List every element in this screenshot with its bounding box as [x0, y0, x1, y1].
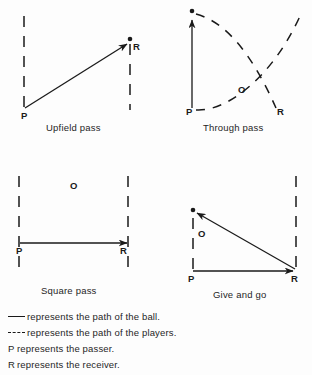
legend: represents the path of the ball. represe…: [8, 308, 308, 372]
legend-row: represents the path of the players.: [8, 324, 308, 340]
caption-through-pass: Through pass: [203, 122, 264, 133]
passer-label: P: [188, 273, 195, 284]
offense-label: O: [198, 228, 205, 239]
legend-text: represents the receiver.: [17, 359, 308, 370]
ball-path-arrow-return: [197, 213, 295, 269]
solid-line-icon: [8, 311, 25, 321]
receiver-label: R: [291, 273, 298, 284]
receiver-label: R: [133, 41, 140, 52]
legend-key-passer: P: [8, 343, 17, 354]
offense-label: O: [70, 180, 77, 191]
passer-label: P: [186, 106, 193, 117]
player-path-curve-bottom: [196, 16, 300, 110]
legend-row: R represents the receiver.: [8, 356, 308, 372]
offense-label: O: [238, 84, 245, 95]
diagram-square-pass: P R O: [16, 176, 128, 272]
legend-text: represents the path of the players.: [27, 327, 308, 338]
legend-text: represents the path of the ball.: [27, 311, 308, 322]
caption-square-pass: Square pass: [41, 285, 97, 296]
legend-key-receiver: R: [8, 359, 17, 370]
diagram-through-pass: P O R: [186, 9, 300, 117]
ball-path-arrow: [25, 44, 127, 108]
caption-upfield-pass: Upfield pass: [46, 122, 101, 133]
diagram-upfield-pass: P R: [21, 16, 140, 121]
legend-text: represents the passer.: [17, 343, 308, 354]
player-path-curve-top: [196, 14, 276, 108]
receiver-label: R: [120, 245, 127, 256]
passer-label: P: [16, 245, 23, 256]
diagram-give-and-go: P R O: [188, 176, 298, 284]
receiver-dot: [128, 37, 133, 42]
ball-target-dot: [190, 9, 195, 14]
dashed-line-icon: [8, 327, 25, 337]
legend-row: P represents the passer.: [8, 340, 308, 356]
legend-row: represents the path of the ball.: [8, 308, 308, 324]
receiver-label: R: [277, 106, 284, 117]
return-target-dot: [191, 208, 196, 213]
passer-label: P: [21, 110, 28, 121]
caption-give-and-go: Give and go: [213, 289, 266, 300]
diagram-page: P R P O R P R O P: [0, 0, 312, 375]
